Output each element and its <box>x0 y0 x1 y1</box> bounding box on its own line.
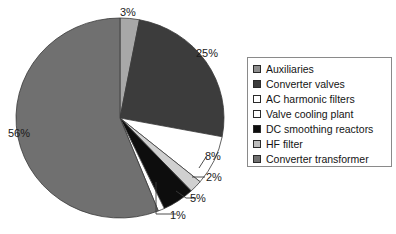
legend-swatch-icon <box>253 155 261 163</box>
legend-swatch-icon <box>253 95 261 103</box>
pie-slice-group <box>16 18 224 218</box>
pie-label-5: 5% <box>190 192 206 204</box>
chart-page: 3% 25% 56% 8% 2% 5% 1% AuxiliariesConver… <box>0 0 396 234</box>
pie-label-25: 25% <box>196 47 218 59</box>
legend-item-label: Converter valves <box>266 78 345 90</box>
pie-label-1: 1% <box>170 209 186 221</box>
legend-item[interactable]: Converter valves <box>253 76 391 91</box>
legend-swatch-icon <box>253 125 261 133</box>
legend-swatch-icon <box>253 80 261 88</box>
legend-item[interactable]: Converter transformer <box>253 151 391 166</box>
legend-item[interactable]: Valve cooling plant <box>253 106 391 121</box>
legend-item-label: AC harmonic filters <box>266 93 355 105</box>
legend-item-label: DC smoothing reactors <box>266 123 373 135</box>
legend-item-label: Auxiliaries <box>266 63 314 75</box>
legend-item[interactable]: DC smoothing reactors <box>253 121 391 136</box>
pie-label-3: 3% <box>120 6 136 18</box>
pie-chart: 3% 25% 56% 8% 2% 5% 1% <box>0 0 240 234</box>
legend-item[interactable]: Auxiliaries <box>253 61 391 76</box>
legend-swatch-icon <box>253 65 261 73</box>
pie-label-56: 56% <box>8 127 30 139</box>
legend-item[interactable]: AC harmonic filters <box>253 91 391 106</box>
pie-slice[interactable] <box>120 20 224 137</box>
legend-swatch-icon <box>253 110 261 118</box>
legend-item-label: Valve cooling plant <box>266 108 353 120</box>
legend-item[interactable]: HF filter <box>253 136 391 151</box>
legend-swatch-icon <box>253 140 261 148</box>
chart-legend: AuxiliariesConverter valvesAC harmonic f… <box>247 57 392 167</box>
pie-label-8: 8% <box>205 150 221 162</box>
legend-item-label: Converter transformer <box>266 153 369 165</box>
pie-label-2: 2% <box>206 171 222 183</box>
legend-item-label: HF filter <box>266 138 303 150</box>
